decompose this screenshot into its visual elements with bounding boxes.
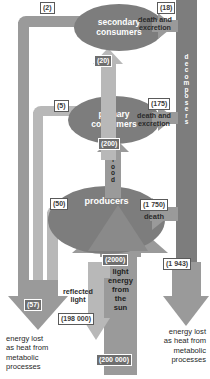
energy-lost-right-caption: energy lost as heat from metabolic proce…	[140, 327, 206, 365]
primary-respiration-bar-vertical	[33, 112, 43, 292]
chip-producers-respiration: (50)	[50, 198, 68, 210]
energy-lost-left-caption: energy lost as heat from metabolic proce…	[6, 334, 84, 372]
secondary-death-excretion-label: death and excretion	[124, 16, 186, 32]
producers-net-production-triangle	[88, 205, 148, 251]
chip-reflected-light: (198 000)	[58, 313, 94, 325]
chip-sun-net: (2000)	[102, 254, 128, 266]
chip-primary-respiration: (5)	[54, 100, 69, 112]
energy-flow-diagram: decomposers producers food primary c	[0, 0, 210, 379]
secondary-respiration-bar-vertical	[18, 22, 29, 292]
chip-metabolic-loss-left: (57)	[24, 299, 42, 311]
chip-food: (200)	[98, 138, 120, 150]
reflected-light-label: reflected light	[54, 288, 102, 304]
sun-energy-label: light energy from the sun	[104, 268, 137, 313]
chip-secondary-respiration: (2)	[40, 2, 55, 14]
decomposers-column	[176, 0, 197, 262]
food-label: food	[105, 157, 121, 183]
primary-death-excretion-label: death and excretion	[122, 112, 186, 128]
chip-primary-death-excretion: (175)	[148, 98, 170, 110]
chip-secondary-intake: (20)	[94, 55, 112, 67]
chip-secondary-death-excretion: (18)	[157, 2, 175, 14]
chip-decomposers-heat-loss: (1 943)	[163, 258, 191, 270]
producers-death-label: death	[144, 213, 164, 221]
chip-producers-death: (1 750)	[140, 199, 168, 211]
chip-sun-total: (200 000)	[96, 354, 132, 366]
decomposers-heat-arrowhead	[163, 296, 209, 326]
